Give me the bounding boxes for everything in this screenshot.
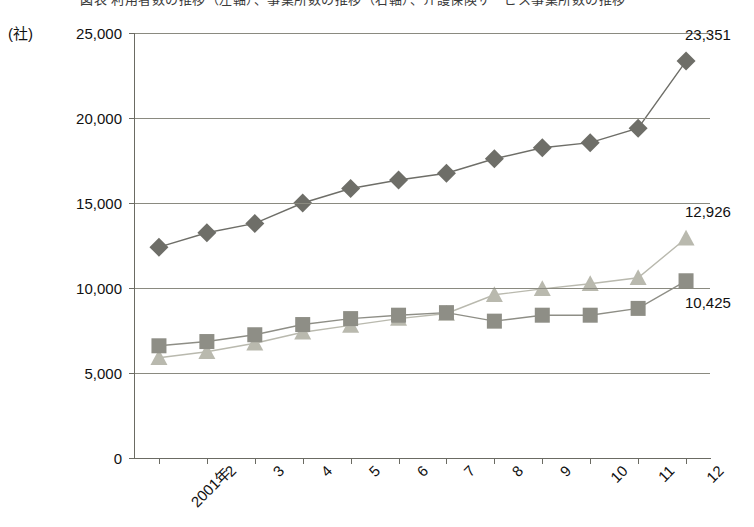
x-tick-label: 4: [317, 462, 335, 480]
x-tick-label: 10: [607, 462, 631, 486]
series-diamond: [149, 52, 695, 257]
x-tick-label: 9: [557, 462, 575, 480]
x-tick-label: 5: [365, 462, 383, 480]
y-axis-tick-labels: 05,00010,00015,00020,00025,000: [44, 0, 122, 527]
x-axis-line: [134, 458, 711, 459]
series-square: [151, 273, 693, 353]
y-tick-label: 20,000: [44, 110, 122, 127]
gridline: [135, 288, 710, 289]
y-tick-label: 0: [44, 450, 122, 467]
plot-area: [135, 33, 710, 458]
y-tick-label: 10,000: [44, 280, 122, 297]
y-tick-mark: [129, 458, 135, 459]
y-tick-label: 5,000: [44, 365, 122, 382]
series-triangle: [150, 230, 694, 365]
gridline: [135, 118, 710, 119]
gridline: [135, 33, 710, 34]
y-tick-mark: [129, 203, 135, 204]
chart-title: 図表 利用者数の推移（左軸）、事業所数の推移（右軸）、介護保険サービス事業所数の…: [80, 0, 626, 8]
gridline: [135, 373, 710, 374]
value-callout-triangle: 12,926: [685, 203, 731, 220]
x-tick-label: 11: [655, 462, 678, 485]
x-tick-label: 6: [413, 462, 431, 480]
x-tick-label: 8: [509, 462, 527, 480]
x-tick-label: 3: [269, 462, 287, 480]
x-tick-label: 7: [461, 462, 479, 480]
x-axis-tick-labels: 2001年23456789101112: [135, 462, 735, 527]
gridline: [135, 203, 710, 204]
value-callout-diamond: 23,351: [685, 26, 731, 43]
value-callout-square: 10,425: [685, 294, 731, 311]
y-tick-mark: [129, 33, 135, 34]
chart-page: 図表 利用者数の推移（左軸）、事業所数の推移（右軸）、介護保険サービス事業所数の…: [0, 0, 754, 527]
y-tick-mark: [129, 118, 135, 119]
series-layer: [135, 33, 710, 458]
y-tick-mark: [129, 373, 135, 374]
y-axis-unit-label: (社): [8, 22, 33, 43]
y-tick-label: 15,000: [44, 195, 122, 212]
x-tick-label: 12: [703, 462, 727, 486]
y-tick-label: 25,000: [44, 25, 122, 42]
y-tick-mark: [129, 288, 135, 289]
